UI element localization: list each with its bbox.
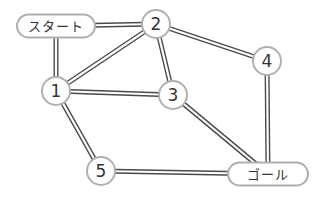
node-label: 3 — [168, 85, 179, 105]
node-label: 2 — [151, 14, 162, 34]
edge-2-4 — [156, 24, 267, 61]
node-5: 5 — [87, 157, 115, 185]
node-label: 4 — [262, 51, 273, 71]
node-label: 1 — [51, 81, 62, 101]
node-label: ゴール — [247, 167, 289, 182]
edge-1-3 — [56, 91, 173, 95]
route-graph-diagram: スタート12345ゴール — [0, 0, 330, 198]
node-label: スタート — [28, 19, 84, 34]
node-1: 1 — [42, 77, 70, 105]
node-3: 3 — [159, 81, 187, 109]
node-goal-pill: ゴール — [228, 163, 308, 186]
node-2: 2 — [142, 10, 170, 38]
nodes-layer: スタート12345ゴール — [17, 10, 308, 186]
node-4: 4 — [253, 47, 281, 75]
node-label: 5 — [96, 161, 107, 181]
node-start-pill: スタート — [17, 15, 95, 38]
edge-4-goal — [267, 61, 268, 174]
